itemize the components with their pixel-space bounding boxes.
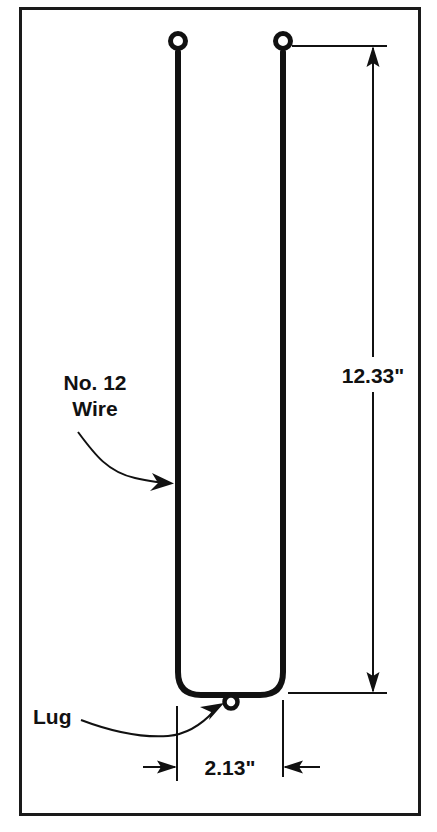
vertical-dimension-label: 12.33" bbox=[342, 364, 405, 387]
wire-callout-label-line2: Wire bbox=[72, 397, 117, 420]
horizontal-dimension-label: 2.13" bbox=[205, 756, 256, 779]
wire-dimension-diagram: 12.33" 2.13" No. 12 Wire Lug bbox=[0, 0, 437, 832]
lug-ring-icon bbox=[225, 696, 238, 709]
wire-callout-label-line1: No. 12 bbox=[63, 371, 126, 394]
figure-root: 12.33" 2.13" No. 12 Wire Lug bbox=[0, 0, 437, 832]
wire-eye-loop-icon-left bbox=[171, 34, 186, 49]
lug-callout-label: Lug bbox=[33, 705, 71, 728]
wire-eye-loop-icon-right bbox=[276, 34, 291, 49]
